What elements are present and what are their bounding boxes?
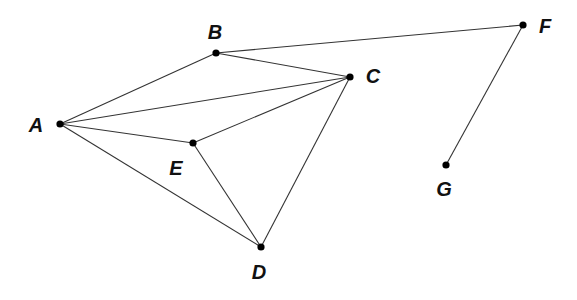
graph-diagram: ABCDEFG xyxy=(0,0,577,300)
node-label-d: D xyxy=(252,261,266,283)
edge-c-d xyxy=(261,77,350,247)
edge-f-g xyxy=(446,25,523,165)
edge-c-e xyxy=(193,77,350,143)
edge-a-e xyxy=(60,124,193,143)
edge-e-d xyxy=(193,143,261,247)
nodes xyxy=(56,21,526,250)
edge-a-c xyxy=(60,77,350,124)
node-b xyxy=(212,49,219,56)
node-label-f: F xyxy=(539,15,552,37)
node-label-g: G xyxy=(436,178,452,200)
node-g xyxy=(442,161,449,168)
node-a xyxy=(56,120,63,127)
edge-a-d xyxy=(60,124,261,247)
node-c xyxy=(346,73,353,80)
edges xyxy=(60,25,523,247)
node-e xyxy=(189,139,196,146)
node-d xyxy=(257,243,264,250)
labels: ABCDEFG xyxy=(28,15,552,283)
edge-b-c xyxy=(216,53,350,77)
node-label-e: E xyxy=(169,157,183,179)
node-label-a: A xyxy=(28,114,43,136)
node-f xyxy=(519,21,526,28)
edge-a-b xyxy=(60,53,216,124)
node-label-b: B xyxy=(208,21,222,43)
node-label-c: C xyxy=(366,65,381,87)
edge-b-f xyxy=(216,25,523,53)
